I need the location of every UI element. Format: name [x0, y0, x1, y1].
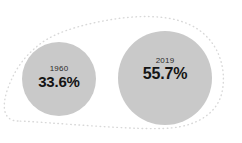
- bubble-2019-labels: 2019 55.7%: [143, 56, 187, 82]
- bubble-1960[interactable]: 1960 33.6%: [22, 42, 96, 116]
- bubble-2019[interactable]: 2019 55.7%: [118, 31, 212, 125]
- bubble-1960-labels: 1960 33.6%: [38, 64, 80, 90]
- bubble-comparison-figure: ····· ···· ······ 1960 33.6% 2019 55.7%: [0, 0, 242, 143]
- bubble-1960-value: 33.6%: [38, 74, 80, 90]
- cropped-title-text: ····· ···· ······: [12, 0, 130, 3]
- bubble-2019-value: 55.7%: [143, 66, 187, 82]
